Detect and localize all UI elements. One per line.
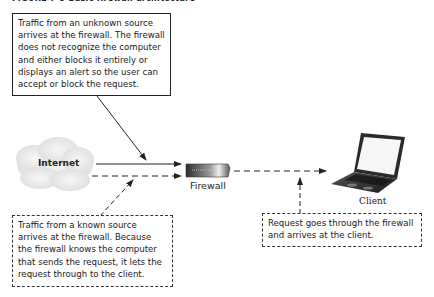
laptop-icon	[331, 133, 405, 193]
internet-label: Internet	[38, 158, 79, 168]
callout-unknown-source: Traffic from an unknown source arrives a…	[12, 13, 171, 96]
callout-to-client: Request goes through the firewall and ar…	[262, 213, 422, 247]
callout-pointer-known	[100, 180, 133, 216]
callout-pointer-unknown	[97, 96, 146, 160]
callout-known-source: Traffic from a known source arrives at t…	[12, 215, 173, 287]
firewall-device-icon	[186, 164, 230, 177]
client-label: Client	[359, 196, 386, 206]
firewall-label: Firewall	[190, 180, 226, 191]
